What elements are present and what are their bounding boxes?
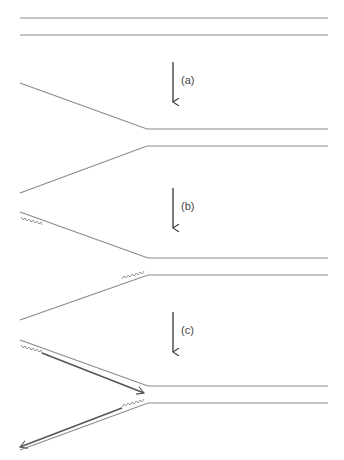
upper-strand	[20, 212, 328, 258]
fork-stage-3	[20, 340, 328, 450]
upper-strand	[20, 83, 328, 129]
fork-stage-2	[20, 212, 328, 320]
step-c-label: (c)	[181, 325, 194, 336]
new-strand-upper-arrow	[42, 353, 144, 393]
fork-stage-1	[20, 83, 328, 193]
lower-strand	[20, 275, 328, 320]
new-strand-lower-arrow	[20, 408, 122, 447]
duplex-dna	[20, 18, 328, 35]
replication-diagram	[0, 0, 344, 460]
lower-strand	[20, 146, 328, 193]
lower-strand	[20, 403, 328, 450]
step-a-label: (a)	[181, 75, 194, 86]
step-b-label: (b)	[181, 201, 194, 212]
